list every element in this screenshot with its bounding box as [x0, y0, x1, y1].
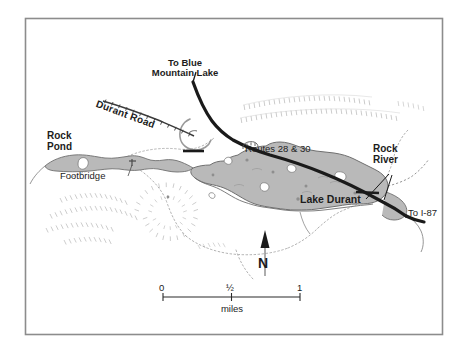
- scale-tick-1: 1: [297, 283, 302, 293]
- map-figure: To Blue Mountain Lake Rock Pond Footbrid…: [0, 0, 468, 353]
- label-to-blue-mountain-lake: To Blue Mountain Lake: [137, 58, 233, 79]
- scale-tick-half: ½: [226, 283, 234, 293]
- rock-pond-island: [78, 158, 88, 170]
- scale-tick-0: 0: [159, 283, 164, 293]
- label-footbridge: Footbridge: [60, 171, 105, 181]
- scale-units-label: miles: [206, 304, 258, 314]
- compass-north-letter: N: [258, 256, 268, 271]
- label-rock-river: Rock River: [373, 144, 398, 166]
- label-rock-pond: Rock Pond: [47, 131, 72, 153]
- label-lake-durant: Lake Durant: [300, 194, 361, 205]
- label-to-i87: To I-87: [408, 208, 437, 218]
- label-routes-28-30: Routes 28 & 30: [245, 144, 311, 154]
